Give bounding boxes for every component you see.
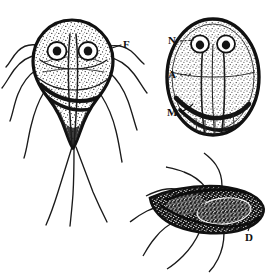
label-flagella: F — [123, 38, 130, 50]
giardia-figure-svg: F — [0, 0, 279, 275]
label-nucleus: N — [168, 34, 176, 46]
label-disc: D — [245, 231, 253, 243]
label-median-body: M — [167, 106, 178, 118]
karyosome-right — [84, 46, 93, 55]
karyosome-left — [53, 46, 62, 55]
cyst-karyosome-right — [222, 41, 230, 50]
illustration-plate: F — [0, 0, 279, 275]
panel-cyst: N A M — [167, 19, 259, 139]
cyst-karyosome-left — [196, 41, 204, 50]
label-axostyle: A — [168, 68, 176, 80]
